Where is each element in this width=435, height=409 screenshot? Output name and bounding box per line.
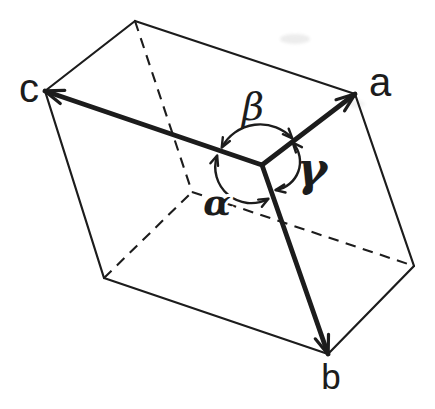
angle-label-alpha: α xyxy=(203,181,231,223)
hidden-edges xyxy=(104,21,414,278)
axis-vectors xyxy=(45,91,355,354)
unit-cell-diagram: a b c α β γ xyxy=(0,0,435,409)
axis-label-b: b xyxy=(321,357,340,396)
cell-edge-top-a_tip xyxy=(135,21,355,94)
angle-label-beta: β xyxy=(240,85,264,129)
diagram-canvas: a b c α β γ xyxy=(0,0,435,409)
hidden-edge-bottom_left-hidden xyxy=(104,192,192,278)
cell-edge-top-c_tip xyxy=(45,21,135,91)
smudge-mark xyxy=(280,34,310,44)
hidden-edge-top-hidden xyxy=(135,21,192,192)
axis-label-c: c xyxy=(19,66,39,110)
cell-edge-right-a_tip xyxy=(355,94,414,266)
cell-edge-c_tip-bottom_left xyxy=(45,91,104,278)
axis-label-a: a xyxy=(369,60,392,104)
cell-edge-bottom_left-b_tip xyxy=(104,278,328,354)
axis-vector-c xyxy=(45,91,262,165)
angle-label-gamma: γ xyxy=(297,142,330,196)
cell-edge-b_tip-right xyxy=(328,266,414,354)
